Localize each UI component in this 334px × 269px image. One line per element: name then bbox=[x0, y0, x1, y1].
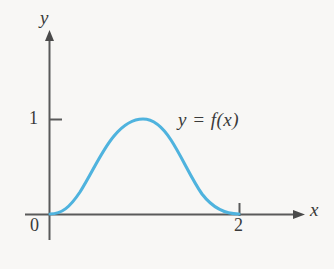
plot-canvas bbox=[0, 0, 334, 269]
x-axis-arrowhead bbox=[293, 210, 305, 219]
y-tick-label-1: 1 bbox=[29, 109, 38, 127]
y-axis-arrowhead bbox=[45, 30, 54, 41]
function-graph-figure: y x 1 0 2 y = f(x) bbox=[0, 0, 334, 269]
function-curve bbox=[50, 119, 239, 214]
x-axis-label: x bbox=[310, 200, 318, 219]
origin-label: 0 bbox=[30, 216, 39, 234]
y-axis-label: y bbox=[40, 8, 48, 27]
curve-equation-label: y = f(x) bbox=[178, 110, 239, 129]
x-tick-label-2: 2 bbox=[234, 216, 243, 234]
